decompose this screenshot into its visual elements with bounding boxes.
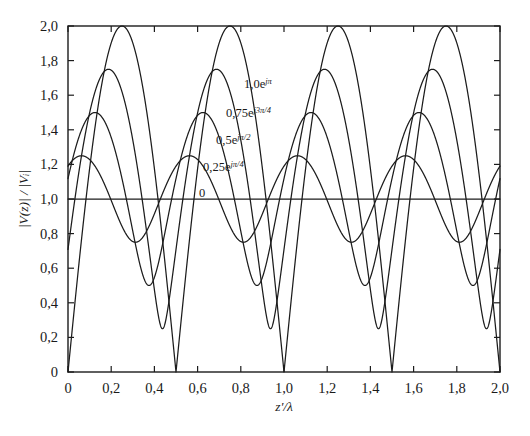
figure-container: 00,20,40,60,81,01,21,41,61,82,0 00,20,40… [0,0,530,436]
y-tick-label: 1,6 [40,87,58,103]
x-tick-label: 0,6 [189,380,207,396]
x-axis-title: z'/λ [274,399,293,414]
y-tick-label: 1,8 [40,53,58,69]
data-curves [68,26,500,372]
ann-gamma-05: 0,5ejπ/2 [216,132,251,148]
x-tick-label: 1,4 [361,380,380,396]
curve-annotations: 1,0ejπ0,75ej3π/40,5ejπ/20,25ejπ/40 [199,76,273,201]
y-axis-title: |V(z)| / |Vᵢ| [16,170,31,228]
y-tick-labels: 00,20,40,60,81,01,21,41,61,82,0 [40,18,59,380]
y-tick-label: 0,2 [40,329,58,345]
y-tick-label: 0,4 [40,295,59,311]
y-tick-label: 2,0 [40,18,58,34]
standing-wave-chart: 00,20,40,60,81,01,21,41,61,82,0 00,20,40… [0,0,530,436]
y-tick-label: 0,8 [40,226,58,242]
x-tick-labels: 00,20,40,60,81,01,21,41,61,82,0 [64,380,509,396]
ann-gamma-0: 0 [199,186,205,200]
x-tick-label: 0,4 [145,380,164,396]
ann-gamma-075: 0,75ej3π/4 [226,105,272,121]
x-tick-label: 2,0 [491,380,509,396]
y-tick-label: 1,0 [40,191,58,207]
x-tick-label: 0 [64,380,71,396]
x-tick-label: 1,0 [275,380,293,396]
x-tick-label: 0,2 [102,380,120,396]
x-tick-label: 0,8 [232,380,250,396]
ann-gamma-025: 0,25ejπ/4 [203,159,244,175]
y-tick-label: 1,4 [40,122,59,138]
y-tick-label: 0 [51,364,58,380]
ann-gamma-1: 1,0ejπ [244,76,273,92]
y-tick-label: 0,6 [40,260,58,276]
x-tick-label: 1,8 [448,380,466,396]
x-tick-label: 1,6 [405,380,423,396]
y-tick-label: 1,2 [40,156,58,172]
x-tick-label: 1,2 [318,380,336,396]
